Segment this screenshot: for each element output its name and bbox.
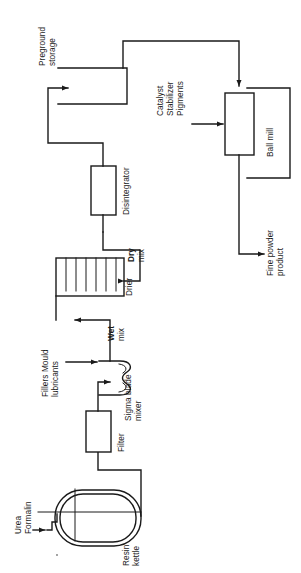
process-flow-diagram: Urea Formalin Resin kettle Filter Sigma … xyxy=(0,0,301,573)
ball-mill-additives-feed: Catalyst Stabilizer Pigments xyxy=(156,81,223,124)
ball-mill-label: Ball mill xyxy=(266,128,275,157)
stream-wet-mix-to-drier xyxy=(75,320,110,361)
urea-formalin-feed: Urea Formalin xyxy=(14,501,58,556)
fine-powder-product-label-1: Fine powder xyxy=(266,230,275,276)
preground-storage-label-1: Preground xyxy=(38,27,47,66)
sigma-blade-mixer-label-1: Sigma blade xyxy=(124,374,133,421)
urea-label: Urea xyxy=(14,516,23,534)
wet-mix-label-2: mix xyxy=(117,328,126,341)
flowsheet-canvas: Urea Formalin Resin kettle Filter Sigma … xyxy=(0,0,301,573)
preground-storage-label-2: storage xyxy=(48,38,57,66)
formalin-label: Formalin xyxy=(24,501,33,534)
resin-kettle-unit xyxy=(38,489,141,546)
preground-storage-bin xyxy=(58,68,127,104)
filter-label: Filter xyxy=(117,433,126,452)
filter-unit: Filter xyxy=(86,411,126,452)
drier-unit: Drier xyxy=(56,258,134,296)
disintegrator-label: Disintegrator xyxy=(122,167,131,215)
wet-mix-label-1: Wet xyxy=(107,326,116,341)
sigma-blade-lobe-upper xyxy=(119,364,126,373)
paper-speck xyxy=(56,554,58,556)
stream-storage-to-ball-mill xyxy=(123,41,239,86)
filter-box xyxy=(86,411,111,452)
disintegrator-box xyxy=(91,166,116,215)
resin-kettle-jacket xyxy=(55,490,141,546)
pigments-label: Pigments xyxy=(176,81,185,116)
fillers-lubricants-feed: Fillers Mould lubricants xyxy=(41,349,97,397)
dry-mix-label-2: mix xyxy=(137,249,146,262)
stream-disintegrator-to-storage xyxy=(48,88,103,166)
resin-kettle-label-1: Resin xyxy=(122,544,131,566)
dry-mix-label-1: Dry xyxy=(127,248,136,262)
catalyst-label: Catalyst xyxy=(156,85,165,116)
disintegrator-unit: Disintegrator xyxy=(91,166,131,215)
stream-fine-powder-product xyxy=(239,155,264,254)
fillers-label-line1: Fillers Mould xyxy=(41,349,50,397)
ball-mill-unit: Ball mill xyxy=(225,88,290,178)
preground-storage-unit: Preground storage xyxy=(38,27,127,104)
resin-kettle-label-2: kettle xyxy=(132,545,141,566)
fine-powder-product-label-2: product xyxy=(276,247,285,276)
ball-mill-box xyxy=(225,93,254,155)
fillers-label-line2: lubricants xyxy=(51,361,60,397)
stream-filter-to-mixer xyxy=(98,382,110,411)
sigma-blade-mixer-label-2: mixer xyxy=(134,400,143,421)
stabilizer-label: Stabilizer xyxy=(166,81,175,116)
